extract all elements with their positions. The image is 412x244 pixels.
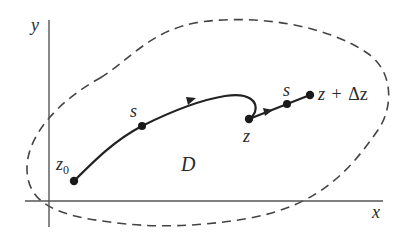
label-end-plus: + bbox=[332, 84, 342, 104]
label-s2: s bbox=[283, 80, 290, 100]
delta-segment bbox=[249, 95, 310, 119]
point-s1 bbox=[138, 122, 146, 130]
label-s1: s bbox=[130, 101, 137, 121]
label-z0-main: z bbox=[55, 154, 63, 174]
region-boundary bbox=[27, 20, 389, 226]
label-z-plus-dz: z + Δz bbox=[317, 84, 368, 104]
region-label: D bbox=[180, 153, 196, 175]
label-end-delta: Δz bbox=[348, 84, 368, 104]
y-axis-label: y bbox=[29, 15, 39, 35]
label-z0-sub: 0 bbox=[63, 163, 69, 177]
point-z-plus-dz bbox=[306, 91, 314, 99]
label-z: z bbox=[242, 126, 250, 146]
point-z bbox=[245, 115, 253, 123]
label-z0: z0 bbox=[55, 154, 69, 177]
diagram-canvas: y x z0 s z s z + Δz D bbox=[0, 0, 412, 244]
point-s2 bbox=[283, 100, 291, 108]
label-end-z: z bbox=[317, 84, 325, 104]
point-z0 bbox=[70, 177, 78, 185]
integration-path bbox=[74, 95, 256, 181]
x-axis-label: x bbox=[371, 202, 380, 222]
